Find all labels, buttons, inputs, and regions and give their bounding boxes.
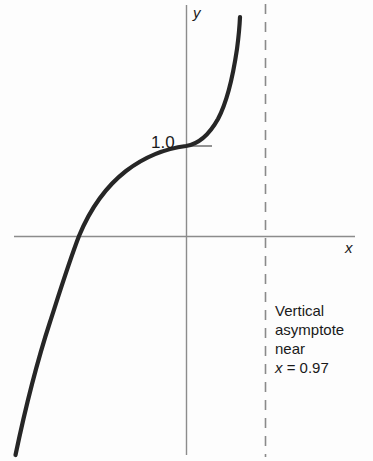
figure-container: y x 1.0 Vertical asymptote near x = 0.97	[0, 0, 373, 461]
asymptote-annotation: Vertical asymptote near x = 0.97	[275, 301, 371, 377]
annotation-value: = 0.97	[283, 359, 329, 376]
annotation-line-2: asymptote	[275, 320, 371, 339]
x-axis-label: x	[345, 240, 353, 255]
annotation-line-1: Vertical	[275, 301, 371, 320]
plot-svg	[0, 0, 373, 461]
annotation-line-3: near	[275, 339, 371, 358]
annotation-line-4: x = 0.97	[275, 358, 371, 377]
y-tick-label-1-0: 1.0	[151, 134, 175, 151]
annotation-variable-x: x	[275, 359, 283, 376]
y-axis-label: y	[193, 5, 201, 20]
